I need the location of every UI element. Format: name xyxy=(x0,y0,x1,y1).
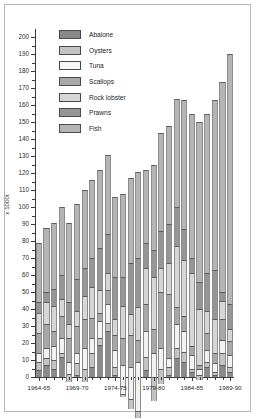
legend-item[interactable]: Prawns xyxy=(59,105,169,121)
bar-segment xyxy=(43,302,49,324)
bar-segment xyxy=(143,304,149,331)
legend-item[interactable]: Fish xyxy=(59,121,169,137)
bar xyxy=(143,170,149,377)
x-tick xyxy=(230,377,231,381)
bar-segment xyxy=(43,358,49,365)
bar-segment xyxy=(174,307,180,324)
legend-swatch xyxy=(59,93,81,102)
x-tick xyxy=(123,377,124,380)
bar-segment xyxy=(227,341,233,355)
legend-item-label: Fish xyxy=(89,125,101,132)
bar-segment xyxy=(143,268,149,304)
y-tick-label: 110 xyxy=(7,187,29,193)
bar-segment xyxy=(212,270,218,319)
legend-item[interactable]: Rock lobster xyxy=(59,89,169,105)
legend-item[interactable]: Abalone xyxy=(59,27,169,43)
x-tick-label: 1969-70 xyxy=(66,384,89,391)
y-tick-label: 80 xyxy=(7,238,29,244)
legend-swatch xyxy=(59,61,81,70)
bar-segment xyxy=(51,331,57,346)
bar-segment xyxy=(189,114,195,258)
bar xyxy=(135,172,141,377)
bar-segment xyxy=(135,340,141,362)
x-tick-label: 1984-85 xyxy=(181,384,204,391)
legend-swatch xyxy=(59,108,81,117)
y-tick-label: 60 xyxy=(7,272,29,278)
x-tick xyxy=(92,377,93,380)
bar xyxy=(51,223,57,377)
bar-segment xyxy=(158,292,164,348)
x-tick xyxy=(39,377,40,381)
bar-segment xyxy=(166,367,172,375)
x-tick-label: 1989-90 xyxy=(219,384,242,391)
bar-segment xyxy=(105,290,111,304)
bar-segment xyxy=(51,346,57,360)
bar-segment xyxy=(82,296,88,320)
bar-segment xyxy=(51,360,57,368)
x-tick xyxy=(169,377,170,380)
x-tick xyxy=(62,377,63,380)
bar-segment xyxy=(120,306,126,338)
bar-segment xyxy=(219,82,225,292)
legend-item-label: Tuna xyxy=(89,62,104,69)
bar-segment xyxy=(181,362,187,377)
legend-item[interactable]: Scallops xyxy=(59,74,169,90)
bar-segment xyxy=(196,309,202,365)
legend-item[interactable]: Tuna xyxy=(59,58,169,74)
bar-segment xyxy=(128,335,134,367)
bar-segment xyxy=(89,180,95,258)
bar-segment xyxy=(97,170,103,248)
bar xyxy=(97,170,103,377)
bar xyxy=(128,178,134,377)
bar-segment xyxy=(204,367,210,377)
x-tick-label: 1979-80 xyxy=(142,384,165,391)
x-tick xyxy=(54,377,55,380)
bar-segment xyxy=(227,329,233,341)
bar-segment xyxy=(97,345,103,377)
bar-segment xyxy=(181,100,187,229)
bar xyxy=(82,190,88,377)
y-tick-label: 130 xyxy=(7,153,29,159)
bar-segment xyxy=(219,319,225,339)
x-tick xyxy=(108,377,109,380)
bar-segment xyxy=(66,324,72,338)
x-tick xyxy=(85,377,86,380)
bar xyxy=(120,194,126,377)
bar-segment xyxy=(143,370,149,377)
bar-segment xyxy=(120,338,126,365)
bar-segment xyxy=(112,350,118,367)
bar-segment xyxy=(204,273,210,310)
x-tick xyxy=(207,377,208,380)
x-tick xyxy=(77,377,78,381)
bar-segment xyxy=(135,362,141,411)
bar xyxy=(166,126,172,377)
bar-segment xyxy=(112,197,118,277)
x-tick xyxy=(161,377,162,380)
y-tick-label: 190 xyxy=(7,51,29,57)
bar-segment xyxy=(189,355,195,369)
bar-segment xyxy=(82,369,88,383)
bar-segment xyxy=(196,282,202,309)
bar-segment xyxy=(89,318,95,338)
bar-segment xyxy=(36,370,42,377)
x-tick xyxy=(177,377,178,380)
y-tick-label: 200 xyxy=(7,34,29,40)
bar-segment xyxy=(36,313,42,333)
x-tick xyxy=(115,377,116,381)
bar-segment xyxy=(219,292,225,300)
y-tick-label: 140 xyxy=(7,136,29,142)
bar-segment xyxy=(59,357,65,377)
bar-segment xyxy=(74,363,80,375)
bar-segment xyxy=(227,54,233,304)
y-tick-label: 160 xyxy=(7,102,29,108)
x-tick xyxy=(184,377,185,380)
bar-segment xyxy=(36,353,42,361)
bar-segment xyxy=(212,353,218,363)
bar-segment xyxy=(97,290,103,312)
bar-segment xyxy=(135,258,141,307)
legend-item[interactable]: Oysters xyxy=(59,43,169,59)
bar-segment xyxy=(97,248,103,290)
bar-segment xyxy=(143,170,149,243)
bar-segment xyxy=(128,367,134,399)
y-tick-label: 40 xyxy=(7,306,29,312)
